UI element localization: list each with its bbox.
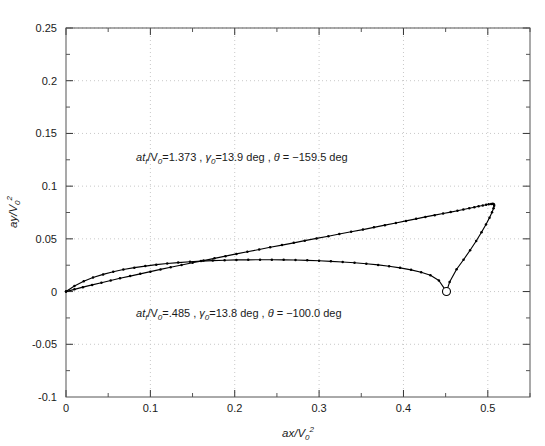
data-point bbox=[119, 277, 122, 280]
data-point bbox=[485, 223, 488, 226]
data-point bbox=[482, 204, 485, 207]
data-point bbox=[410, 269, 413, 272]
data-point bbox=[271, 258, 274, 261]
data-point bbox=[200, 260, 203, 263]
data-point bbox=[384, 224, 387, 227]
data-point bbox=[159, 268, 162, 271]
data-point bbox=[293, 242, 296, 245]
data-point bbox=[212, 259, 215, 262]
data-point bbox=[258, 248, 261, 251]
chart-figure: 00.10.20.30.40.5 -0.1-0.0500.050.10.150.… bbox=[0, 0, 545, 446]
data-point bbox=[73, 288, 76, 291]
data-point bbox=[488, 217, 491, 220]
data-point bbox=[350, 231, 353, 234]
y-tick-label: 0.2 bbox=[42, 75, 57, 87]
data-point bbox=[92, 276, 95, 279]
data-point bbox=[246, 250, 249, 253]
data-point bbox=[177, 261, 180, 264]
scatter-line-plot: 00.10.20.30.40.5 -0.1-0.0500.050.10.150.… bbox=[0, 0, 545, 446]
data-point bbox=[492, 207, 495, 210]
data-point bbox=[180, 264, 183, 267]
data-point bbox=[269, 246, 272, 249]
data-point bbox=[433, 214, 436, 217]
data-point bbox=[491, 211, 494, 214]
data-point bbox=[362, 228, 365, 231]
data-point bbox=[473, 206, 476, 209]
plot-background bbox=[0, 0, 545, 446]
data-point bbox=[477, 205, 480, 208]
x-tick-label: 0.5 bbox=[480, 402, 495, 414]
y-tick-label: 0.05 bbox=[36, 233, 57, 245]
data-point bbox=[438, 279, 441, 282]
y-tick-label: 0.15 bbox=[36, 127, 57, 139]
data-point bbox=[259, 258, 262, 261]
x-tick-label: 0.3 bbox=[311, 402, 326, 414]
data-point bbox=[109, 279, 112, 282]
data-point bbox=[353, 262, 356, 265]
data-point bbox=[91, 284, 94, 287]
x-tick-label: 0.1 bbox=[143, 402, 158, 414]
data-point bbox=[395, 222, 398, 225]
data-point bbox=[429, 274, 432, 277]
data-point bbox=[213, 257, 216, 260]
data-point bbox=[373, 226, 376, 229]
data-point bbox=[469, 249, 472, 252]
data-point bbox=[223, 259, 226, 262]
data-point bbox=[487, 203, 490, 206]
data-point bbox=[282, 259, 285, 262]
data-point bbox=[462, 208, 465, 211]
data-point bbox=[82, 280, 85, 283]
data-point bbox=[415, 218, 418, 221]
data-point bbox=[377, 264, 380, 267]
data-point bbox=[224, 255, 227, 258]
data-point bbox=[424, 216, 427, 219]
x-tick-label: 0.2 bbox=[227, 402, 242, 414]
data-point bbox=[133, 266, 136, 269]
data-point bbox=[341, 261, 344, 264]
endpoint-markers bbox=[442, 288, 450, 296]
data-point bbox=[102, 273, 105, 276]
data-point bbox=[235, 259, 238, 262]
data-point bbox=[448, 281, 451, 284]
data-point bbox=[122, 268, 125, 271]
end-point-open-circle bbox=[442, 288, 450, 296]
data-point bbox=[388, 265, 391, 268]
data-point bbox=[294, 259, 297, 262]
data-point bbox=[480, 231, 483, 234]
data-point bbox=[155, 263, 158, 266]
data-point bbox=[485, 204, 488, 207]
data-point bbox=[493, 204, 496, 207]
data-point bbox=[65, 290, 68, 293]
data-point bbox=[166, 262, 169, 265]
data-point bbox=[449, 211, 452, 214]
data-point bbox=[456, 209, 459, 212]
data-point bbox=[468, 207, 471, 210]
data-point bbox=[405, 220, 408, 223]
data-point bbox=[235, 253, 238, 256]
data-point bbox=[338, 233, 341, 236]
data-point bbox=[129, 275, 132, 278]
y-tick-label: -0.1 bbox=[38, 391, 57, 403]
data-point bbox=[318, 260, 321, 263]
data-point bbox=[462, 258, 465, 261]
data-point bbox=[100, 281, 103, 284]
data-point bbox=[149, 270, 152, 273]
y-tick-label: -0.05 bbox=[32, 338, 57, 350]
y-tick-label: 0 bbox=[51, 286, 57, 298]
data-point bbox=[139, 273, 142, 276]
data-point bbox=[455, 268, 458, 271]
data-point bbox=[315, 237, 318, 240]
data-point bbox=[442, 212, 445, 215]
data-point bbox=[281, 244, 284, 247]
data-point bbox=[144, 265, 147, 268]
data-point bbox=[327, 235, 330, 238]
data-point bbox=[306, 259, 309, 262]
data-point bbox=[399, 267, 402, 270]
data-point bbox=[112, 271, 115, 274]
data-point bbox=[169, 266, 172, 269]
data-point bbox=[73, 285, 76, 288]
data-point bbox=[330, 260, 333, 263]
data-point bbox=[475, 240, 478, 243]
y-tick-label: 0.25 bbox=[36, 22, 57, 34]
x-tick-label: 0 bbox=[63, 402, 69, 414]
